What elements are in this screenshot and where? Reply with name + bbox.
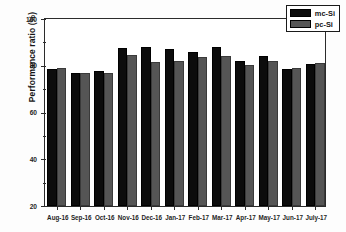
y-axis-minor-tick	[43, 183, 47, 184]
y-axis-tick-label: 40	[30, 156, 37, 163]
y-axis-tick-label: 60	[30, 109, 37, 116]
x-axis-tick-label: Nov-16	[118, 214, 139, 221]
y-axis-tick-label: 80	[30, 62, 37, 69]
x-axis-tick-label: Oct-16	[95, 214, 115, 221]
bar-mc-si-nov-16[interactable]	[118, 48, 127, 206]
bar-mc-si-feb-17[interactable]	[188, 52, 197, 206]
bar-group	[141, 19, 160, 206]
bar-group	[259, 19, 278, 206]
bar-mc-si-dec-16[interactable]	[141, 47, 150, 206]
bar-group	[188, 19, 207, 206]
bar-pc-si-dec-16[interactable]	[151, 62, 160, 206]
x-axis-tick-label: Sep-16	[71, 214, 92, 221]
y-axis-tick: 40	[41, 159, 46, 160]
y-axis-tick-label: 20	[30, 203, 37, 210]
y-axis-tick: 60	[41, 113, 46, 114]
chart-legend: mc-Sipc-Si	[286, 5, 340, 32]
bar-group	[165, 19, 184, 206]
bar-mc-si-oct-16[interactable]	[94, 71, 103, 206]
bar-pc-si-july-17[interactable]	[315, 63, 324, 206]
bar-group	[71, 19, 90, 206]
bar-mc-si-jan-17[interactable]	[165, 49, 174, 206]
bar-pc-si-feb-17[interactable]	[198, 57, 207, 206]
y-axis-tick-label: 100	[26, 16, 37, 23]
y-axis-minor-tick	[43, 89, 47, 90]
bar-mc-si-may-17[interactable]	[259, 56, 268, 206]
bar-group	[235, 19, 254, 206]
bar-pc-si-aug-16[interactable]	[57, 68, 66, 206]
bar-group	[118, 19, 137, 206]
y-axis-tick: 80	[41, 66, 46, 67]
bar-mc-si-july-17[interactable]	[306, 64, 315, 206]
bar-mc-si-sep-16[interactable]	[71, 73, 80, 206]
y-axis-minor-tick	[43, 42, 47, 43]
bar-pc-si-apr-17[interactable]	[245, 65, 254, 206]
x-axis-tick-label: Apr-17	[236, 214, 256, 221]
bar-pc-si-oct-16[interactable]	[104, 73, 113, 206]
y-axis-tick: 20	[41, 206, 46, 207]
bar-group	[306, 19, 325, 206]
legend-swatch-icon	[290, 9, 311, 17]
x-axis-tick-label: Feb-17	[189, 214, 209, 221]
legend-label: mc-Si	[315, 9, 335, 18]
bar-mc-si-mar-17[interactable]	[212, 47, 221, 206]
bar-group	[47, 19, 66, 206]
x-axis-tick-label: July-17	[305, 214, 327, 221]
bar-group	[212, 19, 231, 206]
bar-mc-si-apr-17[interactable]	[235, 61, 244, 206]
bar-pc-si-may-17[interactable]	[268, 61, 277, 206]
bar-mc-si-aug-16[interactable]	[47, 69, 56, 206]
x-axis-tick-label: Dec-16	[141, 214, 162, 221]
bar-pc-si-mar-17[interactable]	[221, 56, 230, 206]
y-axis-minor-tick	[43, 136, 47, 137]
x-axis-tick-label: Mar-17	[212, 214, 232, 221]
bar-pc-si-jun-17[interactable]	[292, 68, 301, 206]
y-axis-tick: 100	[41, 19, 46, 20]
x-axis-tick-label: Aug-16	[47, 214, 68, 221]
bar-pc-si-nov-16[interactable]	[127, 55, 136, 206]
bar-group	[94, 19, 113, 206]
bar-pc-si-jan-17[interactable]	[174, 61, 183, 206]
legend-item-pc-si[interactable]: pc-Si	[290, 20, 335, 29]
x-axis-tick-label: May-17	[259, 214, 280, 221]
legend-label: pc-Si	[315, 20, 333, 29]
legend-swatch-icon	[290, 20, 311, 28]
bar-mc-si-jun-17[interactable]	[282, 69, 291, 206]
x-axis-tick-label: Jan-17	[165, 214, 185, 221]
bar-group	[282, 19, 301, 206]
plot-area: 10080604020 Aug-16Sep-16Oct-16Nov-16Dec-…	[44, 18, 326, 207]
x-axis-tick-label: Jun-17	[283, 214, 303, 221]
bar-pc-si-sep-16[interactable]	[80, 73, 89, 206]
legend-item-mc-si[interactable]: mc-Si	[290, 9, 335, 18]
performance-ratio-bar-chart: Performance ratio (%) 10080604020 Aug-16…	[0, 0, 346, 232]
